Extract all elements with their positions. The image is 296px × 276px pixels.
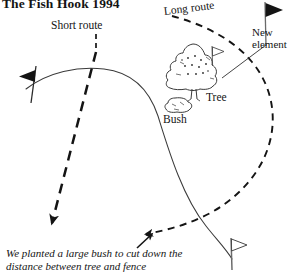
label-new-element: New element (252, 26, 287, 51)
caption-arrow (137, 234, 152, 248)
fence-curve (26, 68, 232, 259)
label-tree: Tree (206, 91, 227, 103)
flag-bottom-icon (231, 238, 247, 270)
label-bush: Bush (163, 113, 187, 125)
page-title: The Fish Hook 1994 (2, 0, 120, 11)
bush-icon (165, 98, 192, 113)
diagram-canvas: The Fish Hook 1994 Short route Long rout… (0, 0, 296, 276)
flag-left-icon (19, 66, 36, 103)
diagram-caption: We planted a large bush to cut down the … (6, 247, 182, 273)
short-route-path (52, 52, 96, 223)
label-short-route: Short route (51, 19, 102, 31)
